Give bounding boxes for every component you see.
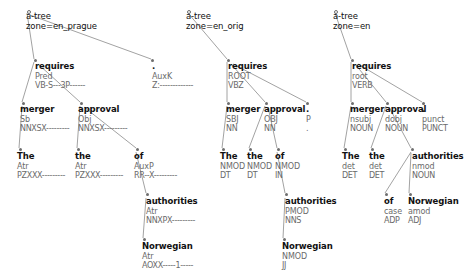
tree-node-prague-of[interactable]: ofAuxPRR--X---------	[134, 152, 177, 181]
node-afun: nmod	[412, 162, 464, 172]
node-afun: amod	[408, 207, 459, 217]
node-afun: Atr	[75, 162, 123, 172]
tree-node-en-authorities[interactable]: authoritiesnmodNOUN	[412, 152, 464, 181]
tree-node-orig-punct[interactable]: .P.	[306, 105, 311, 134]
node-tag: DT	[247, 171, 272, 181]
node-afun: ROOT	[228, 72, 267, 82]
node-word: of	[134, 152, 177, 162]
node-afun: NMOD	[282, 252, 333, 262]
tree-node-en-merger[interactable]: mergernsubjNOUN	[350, 105, 384, 134]
node-word: Norwegian	[282, 242, 333, 252]
node-tag: NOUN	[385, 124, 426, 134]
tree-node-orig-the2[interactable]: theNMODDT	[247, 152, 272, 181]
node-word: Norwegian	[408, 197, 459, 207]
node-tag: PZXXX---------	[17, 171, 65, 181]
tree-node-orig-requires[interactable]: requiresROOTVBZ	[228, 62, 267, 91]
node-afun: PMOD	[285, 207, 337, 217]
tree-node-en-punct[interactable]: .punctPUNCT	[422, 105, 448, 134]
node-afun: Atr	[146, 207, 198, 217]
node-tag: ADP	[384, 216, 402, 226]
tree-node-prague-requires[interactable]: requiresPredVB-S---3P------	[35, 62, 85, 91]
node-tag: Z:-------------	[152, 81, 193, 91]
tree-root-label-tree-en[interactable]: a-treezone=en	[333, 12, 370, 31]
node-word: authorities	[412, 152, 464, 162]
node-word: requires	[228, 62, 267, 72]
tree-root-label-tree-en-prague[interactable]: a-treezone=en_prague	[26, 12, 97, 31]
tree-node-orig-approval[interactable]: approvalOBJNN	[264, 105, 305, 134]
node-tag: NNS	[285, 216, 337, 226]
node-tag: VB-S---3P------	[35, 81, 85, 91]
tree-node-prague-merger[interactable]: mergerSbNNXSX---------	[20, 105, 69, 134]
node-tag: NN	[226, 124, 260, 134]
node-afun: NMOD	[220, 162, 245, 172]
tree-node-orig-the1[interactable]: TheNMODDT	[220, 152, 245, 181]
node-word: the	[75, 152, 123, 162]
tree-node-en-approval[interactable]: approvaldobjNOUN	[385, 105, 426, 134]
tree-node-prague-norwegian[interactable]: NorwegianAtrAOXX-----1-----	[142, 242, 193, 271]
tree-edges-layer	[0, 0, 471, 278]
tree-root-label-tree-en-orig[interactable]: a-treezone=en_orig	[186, 12, 244, 31]
node-tag: NNXSX---------	[78, 124, 127, 134]
tree-node-prague-the2[interactable]: theAtrPZXXX---------	[75, 152, 123, 181]
node-word: approval	[78, 105, 127, 115]
tree-edge	[385, 152, 411, 193]
node-word: requires	[35, 62, 85, 72]
node-afun: NMOD	[275, 162, 300, 172]
tree-node-en-requires[interactable]: requiresrootVERB	[352, 62, 391, 91]
tree-node-prague-approval[interactable]: approvalObjNNXSX---------	[78, 105, 127, 134]
node-word: .	[152, 62, 193, 72]
node-word: of	[384, 197, 402, 207]
node-word: Norwegian	[142, 242, 193, 252]
node-tag: ADJ	[408, 216, 459, 226]
tree-node-orig-merger[interactable]: mergerSBJNN	[226, 105, 260, 134]
node-word: merger	[226, 105, 260, 115]
node-word: authorities	[146, 197, 198, 207]
node-tag: VBZ	[228, 81, 267, 91]
tree-node-en-the2[interactable]: thedetDET	[369, 152, 385, 181]
node-afun: case	[384, 207, 402, 217]
tree-node-prague-the1[interactable]: TheAtrPZXXX---------	[17, 152, 65, 181]
node-afun: Pred	[35, 72, 85, 82]
node-afun: dobj	[385, 115, 426, 125]
node-word: the	[369, 152, 385, 162]
dependency-tree-canvas: a-treezone=en_praguerequiresPredVB-S---3…	[0, 0, 471, 278]
node-word: of	[275, 152, 300, 162]
node-tag: NOUN	[350, 124, 384, 134]
node-afun: AuxP	[134, 162, 177, 172]
node-tag: VERB	[352, 81, 391, 91]
node-tag: DET	[342, 171, 359, 181]
node-word: approval	[264, 105, 305, 115]
node-word: .	[306, 105, 311, 115]
node-tag: NOUN	[412, 171, 464, 181]
tree-edge	[409, 153, 411, 193]
tree-node-prague-auxk[interactable]: .AuxKZ:-------------	[152, 62, 193, 91]
tree-node-en-norwegian[interactable]: NorwegianamodADJ	[408, 197, 459, 226]
node-word: authorities	[285, 197, 337, 207]
tree-node-en-the1[interactable]: ThedetDET	[342, 152, 359, 181]
node-afun: OBJ	[264, 115, 305, 125]
node-afun: punct	[422, 115, 448, 125]
tree-node-prague-authorities[interactable]: authoritiesAtrNNXPX---------	[146, 197, 198, 226]
node-afun: NMOD	[247, 162, 272, 172]
tree-node-en-of[interactable]: ofcaseADP	[384, 197, 402, 226]
node-afun: P	[306, 115, 311, 125]
node-afun: root	[352, 72, 391, 82]
tree-node-orig-norwegian[interactable]: NorwegianNMODJJ	[282, 242, 333, 271]
node-word: The	[220, 152, 245, 162]
tree-node-orig-authorities[interactable]: authoritiesPMODNNS	[285, 197, 337, 226]
node-tag: PZXXX---------	[75, 171, 123, 181]
node-tag: NNXPX---------	[146, 216, 198, 226]
tree-root-zone: zone=en_orig	[186, 22, 244, 32]
node-word: The	[17, 152, 65, 162]
node-afun: Atr	[17, 162, 65, 172]
node-tag: NN	[264, 124, 305, 134]
node-tag: JJ	[282, 261, 333, 271]
node-afun: SBJ	[226, 115, 260, 125]
node-afun: nsubj	[350, 115, 384, 125]
node-afun: Obj	[78, 115, 127, 125]
node-afun: Sb	[20, 115, 69, 125]
node-tag: IN	[275, 171, 300, 181]
tree-node-orig-of[interactable]: ofNMODIN	[275, 152, 300, 181]
node-word: the	[247, 152, 272, 162]
node-tag: RR--X---------	[134, 171, 177, 181]
